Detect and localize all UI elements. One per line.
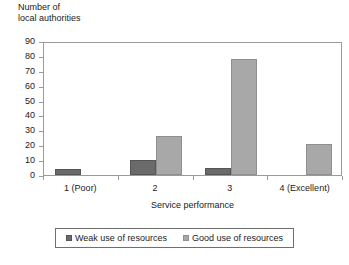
legend-label: Weak use of resources: [75, 233, 167, 244]
y-axis-tick-label: 70: [25, 66, 35, 76]
y-axis-tick-label: 30: [25, 125, 35, 135]
x-axis-label-3: 3: [193, 182, 268, 194]
bar-weak-2: [130, 160, 156, 175]
x-axis-title: Service performance: [43, 200, 342, 211]
bar-weak-1: [55, 169, 81, 175]
bar-good-4: [306, 144, 332, 175]
x-axis-tick-mark: [342, 176, 343, 180]
y-axis-tick-label: 50: [25, 96, 35, 106]
y-axis-tick-label: 0: [30, 170, 35, 180]
y-axis-tick-label: 20: [25, 140, 35, 150]
plot-area: [43, 42, 342, 176]
legend-swatch-icon: [66, 235, 72, 241]
legend-swatch-icon: [183, 235, 189, 241]
y-axis-tick-label: 90: [25, 36, 35, 46]
bar-weak-3: [205, 168, 231, 175]
legend-entry-good: Good use of resources: [183, 233, 283, 244]
x-axis-tick-mark: [118, 176, 119, 180]
x-axis-tick-mark: [43, 176, 44, 180]
x-axis-ticks: [43, 176, 342, 181]
y-axis-tick-label: 40: [25, 110, 35, 120]
legend-label: Good use of resources: [192, 233, 283, 244]
plot-inner: [44, 43, 341, 175]
y-axis-tick-label: 80: [25, 51, 35, 61]
bar-good-2: [156, 136, 182, 175]
y-axis-tick-label: 60: [25, 81, 35, 91]
chart-legend: Weak use of resourcesGood use of resourc…: [55, 228, 294, 248]
x-axis-label-1: 1 (Poor): [43, 182, 118, 194]
legend-entry-weak: Weak use of resources: [66, 233, 167, 244]
bar-good-3: [231, 59, 257, 175]
x-axis-tick-mark: [193, 176, 194, 180]
y-axis-tick-label: 10: [25, 155, 35, 165]
x-axis-tick-mark: [267, 176, 268, 180]
x-axis-label-4: 4 (Excellent): [267, 182, 342, 194]
x-axis-label-2: 2: [118, 182, 193, 194]
x-axis-labels: 1 (Poor)234 (Excellent): [43, 182, 342, 196]
